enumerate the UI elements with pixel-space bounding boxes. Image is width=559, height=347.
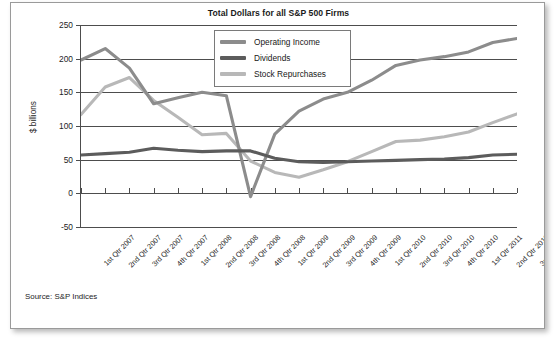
legend-label: Stock Repurchases <box>254 69 326 79</box>
legend-item[interactable]: Dividends <box>220 50 345 66</box>
legend-label: Operating Income <box>254 37 320 47</box>
legend-item[interactable]: Operating Income <box>220 34 345 50</box>
figure-card: Total Dollars for all S&P 500 Firms $ bi… <box>10 2 545 329</box>
legend-label: Dividends <box>254 53 290 63</box>
y-axis-tick-label: 150 <box>59 87 73 97</box>
chart-title: Total Dollars for all S&P 500 Firms <box>11 8 545 18</box>
y-axis-tick-label: 0 <box>68 188 73 198</box>
legend-line-swatch <box>220 40 246 44</box>
x-axis-tick-labels: 1st Qtr 20072nd Qtr 20073rd Qtr 20074th … <box>81 229 527 299</box>
y-axis-title: $ billions <box>29 101 38 133</box>
chart-legend: Operating IncomeDividendsStock Repurchas… <box>214 30 351 87</box>
source-note: Source: S&P Indices <box>25 292 97 301</box>
y-axis-tick-label: 100 <box>59 121 73 131</box>
x-axis-tick <box>517 188 518 193</box>
y-axis-tick-label: -50 <box>61 222 73 232</box>
legend-line-swatch <box>220 72 246 76</box>
y-axis-tick-label: 50 <box>64 155 73 165</box>
legend-line-swatch <box>220 56 246 60</box>
y-axis-tick-label: 200 <box>59 54 73 64</box>
gridline <box>81 227 517 228</box>
y-axis-tick <box>76 227 81 228</box>
legend-item[interactable]: Stock Repurchases <box>220 66 345 82</box>
y-axis-tick-label: 250 <box>59 20 73 30</box>
series-line <box>81 148 517 162</box>
